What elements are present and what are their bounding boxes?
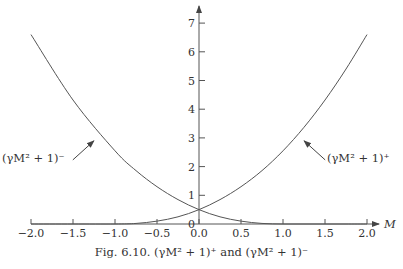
label-plus-curve: (γM² + 1)⁺	[327, 151, 390, 165]
x-tick-label: −0.5	[144, 227, 171, 240]
label-minus-curve: (γM² + 1)⁻	[2, 151, 65, 165]
x-tick-label: 0.5	[232, 227, 250, 240]
curve-annotations: (γM² + 1)⁺(γM² + 1)⁻	[2, 141, 390, 165]
y-tick-label: 5	[188, 75, 195, 88]
x-tick-label: −1.5	[60, 227, 87, 240]
x-tick-label: 2.0	[358, 227, 376, 240]
y-tick-label: 7	[188, 17, 195, 30]
y-tick-label: 0	[188, 218, 195, 231]
figure-caption: Fig. 6.10. (γM² + 1)⁺ and (γM² + 1)⁻	[0, 245, 403, 259]
x-axis-label: M	[383, 217, 397, 231]
y-tick-label: 3	[188, 132, 195, 145]
y-tick-label: 6	[188, 46, 195, 59]
y-tick-label: 2	[188, 161, 195, 174]
x-tick-label: 1.5	[316, 227, 334, 240]
figure: M−2.0−1.5−1.0−0.50.00.51.01.52.001234567…	[0, 0, 403, 269]
x-tick-label: −2.0	[18, 227, 45, 240]
y-tick-label: 4	[188, 103, 195, 116]
x-tick-label: 1.0	[274, 227, 292, 240]
arrow-plus	[304, 141, 325, 160]
arrow-minus	[73, 141, 94, 160]
axes: M−2.0−1.5−1.0−0.50.00.51.01.52.001234567	[18, 6, 397, 240]
chart-plot-area: M−2.0−1.5−1.0−0.50.00.51.01.52.001234567…	[0, 0, 403, 245]
y-tick-label: 1	[188, 189, 195, 202]
x-tick-label: −1.0	[102, 227, 129, 240]
